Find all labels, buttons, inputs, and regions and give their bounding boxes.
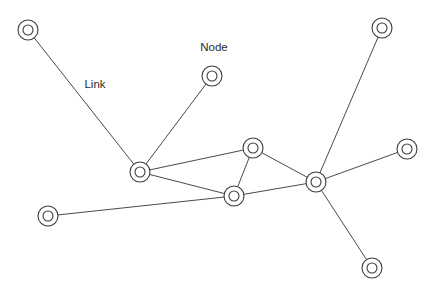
- network-graph-svg: NodeLink: [0, 0, 435, 290]
- node-top-right[interactable]: [372, 18, 392, 38]
- link-labeled-node-to-left-hub[interactable]: [146, 84, 206, 164]
- node-upper-center-inner-ring: [248, 143, 258, 153]
- node-mid-right[interactable]: [397, 139, 417, 159]
- link-right-hub-to-bottom-right[interactable]: [321, 190, 366, 259]
- link-left-hub-to-center-bottom[interactable]: [150, 174, 225, 193]
- link-top-left-to-left-hub[interactable]: [34, 38, 134, 164]
- link-annotation-label: Link: [84, 78, 105, 90]
- link-right-hub-to-mid-right[interactable]: [325, 152, 397, 178]
- link-bottom-left-to-center-bottom[interactable]: [58, 197, 224, 215]
- node-top-left-inner-ring: [23, 25, 33, 35]
- node-annotation-label: Node: [200, 41, 228, 53]
- link-right-hub-to-top-right[interactable]: [320, 37, 378, 173]
- node-bottom-right[interactable]: [362, 258, 382, 278]
- link-left-hub-to-upper-center[interactable]: [150, 150, 243, 170]
- link-upper-center-to-right-hub[interactable]: [262, 153, 307, 178]
- link-upper-center-to-center-bottom[interactable]: [238, 157, 250, 186]
- node-bottom-left-inner-ring: [43, 211, 53, 221]
- link-center-bottom-to-right-hub[interactable]: [244, 184, 306, 195]
- node-center-bottom[interactable]: [224, 186, 244, 206]
- node-right-hub-inner-ring: [311, 177, 321, 187]
- node-top-right-inner-ring: [377, 23, 387, 33]
- node-left-hub[interactable]: [130, 162, 150, 182]
- node-left-hub-inner-ring: [135, 167, 145, 177]
- node-labeled-node-inner-ring: [207, 71, 217, 81]
- node-upper-center[interactable]: [243, 138, 263, 158]
- node-right-hub[interactable]: [306, 172, 326, 192]
- nodes-group: [18, 18, 417, 278]
- node-bottom-right-inner-ring: [367, 263, 377, 273]
- node-labeled-node[interactable]: [202, 66, 222, 86]
- node-mid-right-inner-ring: [402, 144, 412, 154]
- network-diagram-canvas: NodeLink: [0, 0, 435, 290]
- node-bottom-left[interactable]: [38, 206, 58, 226]
- node-top-left[interactable]: [18, 20, 38, 40]
- node-center-bottom-inner-ring: [229, 191, 239, 201]
